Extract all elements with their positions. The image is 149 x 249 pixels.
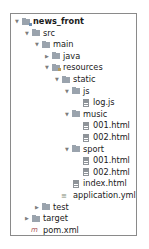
tree-item-label: test (53, 202, 69, 213)
expand-arrow-icon[interactable]: ▼ (63, 144, 71, 155)
file-icon (81, 122, 91, 130)
folder-icon (71, 145, 81, 153)
maven-file-icon: m (31, 226, 41, 234)
folder-icon (31, 215, 41, 223)
tree-item-label: 002.html (93, 167, 130, 178)
collapse-arrow-icon[interactable]: ▶ (43, 51, 51, 62)
tree-item-label: music (83, 109, 107, 120)
module-folder-icon (21, 18, 31, 26)
project-tree: ▼news_front▼src▼main▶java▼resources▼stat… (10, 13, 137, 236)
tree-item-label: application.yml (73, 190, 136, 201)
tree-item-label: java (63, 51, 80, 62)
tree-item-label: js (83, 86, 90, 97)
expand-arrow-icon[interactable]: ▼ (33, 39, 41, 50)
yml-file-icon: ≡ (61, 192, 71, 200)
tree-item[interactable]: ▼resources (43, 62, 103, 73)
expand-arrow-icon[interactable]: ▼ (63, 109, 71, 120)
folder-icon (31, 29, 41, 37)
tree-item-label: 001.html (93, 155, 130, 166)
folder-icon (71, 87, 81, 95)
tree-item-label: pom.xml (43, 225, 79, 236)
expand-arrow-icon[interactable]: ▼ (13, 16, 21, 27)
tree-item[interactable]: ▶java (43, 51, 80, 62)
tree-item[interactable]: ≡application.yml (53, 190, 136, 201)
tree-item[interactable]: 002.html (73, 167, 130, 178)
tree-item[interactable]: ▶target (23, 213, 68, 224)
expand-arrow-icon[interactable]: ▼ (63, 86, 71, 97)
tree-item-label: sport (83, 144, 104, 155)
folder-icon (71, 110, 81, 118)
tree-item-label: log.js (93, 97, 115, 108)
file-icon (81, 99, 91, 107)
tree-item[interactable]: ▶test (33, 202, 69, 213)
tree-item-label: target (43, 213, 68, 224)
folder-icon (41, 41, 51, 49)
tree-item-label: 001.html (93, 120, 130, 131)
tree-item-label: index.html (83, 178, 127, 189)
tree-item-label: resources (63, 62, 103, 73)
expand-arrow-icon[interactable]: ▼ (23, 28, 31, 39)
tree-item[interactable]: log.js (73, 97, 115, 108)
tree-item[interactable]: ▼news_front (13, 16, 84, 27)
file-icon (81, 157, 91, 165)
resources-folder-icon (51, 64, 61, 72)
tree-item[interactable]: 001.html (73, 155, 130, 166)
tree-item[interactable]: 002.html (73, 132, 130, 143)
tree-item[interactable]: ▼music (63, 109, 107, 120)
tree-item[interactable]: index.html (63, 178, 127, 189)
tree-item[interactable]: ▼src (23, 28, 55, 39)
folder-icon (41, 203, 51, 211)
collapse-arrow-icon[interactable]: ▶ (23, 213, 31, 224)
expand-arrow-icon[interactable]: ▼ (43, 62, 51, 73)
file-icon (71, 180, 81, 188)
tree-item[interactable]: ▼js (63, 86, 90, 97)
tree-item[interactable]: ▼static (53, 74, 95, 85)
tree-item[interactable]: ▼sport (63, 144, 104, 155)
tree-item[interactable]: 001.html (73, 120, 130, 131)
collapse-arrow-icon[interactable]: ▶ (33, 202, 41, 213)
tree-item[interactable]: mpom.xml (23, 225, 79, 236)
file-icon (81, 134, 91, 142)
tree-item[interactable]: ▼main (33, 39, 73, 50)
file-icon (81, 168, 91, 176)
folder-icon (61, 76, 71, 84)
tree-item-label: static (73, 74, 95, 85)
tree-item-label: main (53, 39, 73, 50)
tree-item-label: news_front (33, 16, 84, 27)
folder-icon (51, 52, 61, 60)
tree-item-label: src (43, 28, 55, 39)
tree-item-label: 002.html (93, 132, 130, 143)
expand-arrow-icon[interactable]: ▼ (53, 74, 61, 85)
